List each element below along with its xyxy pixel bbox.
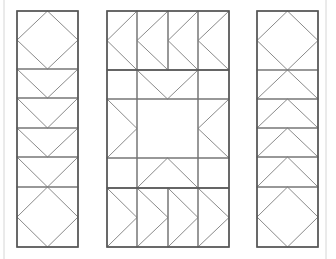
goose-left-block [137, 11, 168, 70]
star-center-square [137, 99, 198, 158]
goose-right-block [198, 188, 229, 247]
goose-left-block [168, 11, 198, 70]
goose-right-block [107, 188, 137, 247]
block-outline [17, 98, 78, 128]
block-outline [17, 128, 78, 157]
block-outline [17, 157, 78, 187]
block-outline [198, 11, 229, 70]
block-outline [168, 188, 198, 247]
block-outline [107, 188, 137, 247]
block-outline [257, 187, 318, 247]
block-outline [137, 11, 168, 70]
square-in-square-block [257, 187, 318, 247]
block-outline [107, 11, 137, 70]
goose-down-block [17, 157, 78, 187]
block-outline [198, 99, 229, 158]
panel-frame [17, 11, 78, 247]
block-outline [257, 128, 318, 157]
block-outline [107, 99, 137, 158]
quilt-diagram [0, 0, 336, 259]
square-in-square-block [17, 187, 78, 247]
goose-down-block [137, 70, 198, 99]
goose-up-block [257, 99, 318, 128]
block-outline [137, 70, 198, 99]
square-in-square-block [17, 11, 78, 69]
block-outline [137, 158, 198, 188]
goose-left-block [107, 11, 137, 70]
goose-up-block [137, 158, 198, 188]
block-outline [257, 99, 318, 128]
goose-right-block [168, 188, 198, 247]
block-outline [168, 11, 198, 70]
block-outline [198, 188, 229, 247]
left-border-column [17, 11, 78, 247]
right-border-column [257, 11, 318, 247]
square-in-square-block [257, 11, 318, 70]
goose-right-block [107, 99, 137, 158]
block-outline [257, 11, 318, 70]
block-outline [137, 188, 168, 247]
star-corner-square [198, 158, 229, 188]
goose-left-block [198, 11, 229, 70]
goose-down-block [17, 98, 78, 128]
goose-right-block [137, 188, 168, 247]
star-corner-square [107, 70, 137, 99]
center-star-panel [107, 11, 229, 247]
goose-down-block [17, 128, 78, 157]
goose-down-block [17, 69, 78, 98]
star-corner-square [107, 158, 137, 188]
goose-up-block [257, 157, 318, 187]
block-outline [257, 157, 318, 187]
quilt-panels [17, 11, 318, 247]
goose-up-block [257, 128, 318, 157]
block-outline [17, 187, 78, 247]
star-corner-square [198, 70, 229, 99]
block-outline [17, 69, 78, 98]
goose-up-block [257, 70, 318, 99]
panel-frame [257, 11, 318, 247]
goose-left-block [198, 99, 229, 158]
block-outline [257, 70, 318, 99]
block-outline [17, 11, 78, 69]
